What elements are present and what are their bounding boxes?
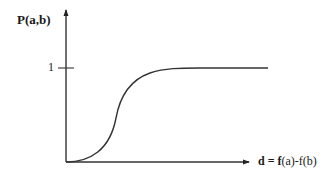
y-tick-label: 1: [48, 61, 54, 73]
x-axis-label: d = f(a)-f(b): [258, 155, 317, 167]
sigmoid-curve: [66, 68, 268, 162]
x-axis-label-rest: (a)-f(b): [282, 154, 317, 168]
y-axis-label: P(a,b): [17, 13, 51, 26]
x-axis-label-bold: d = f: [258, 154, 282, 168]
